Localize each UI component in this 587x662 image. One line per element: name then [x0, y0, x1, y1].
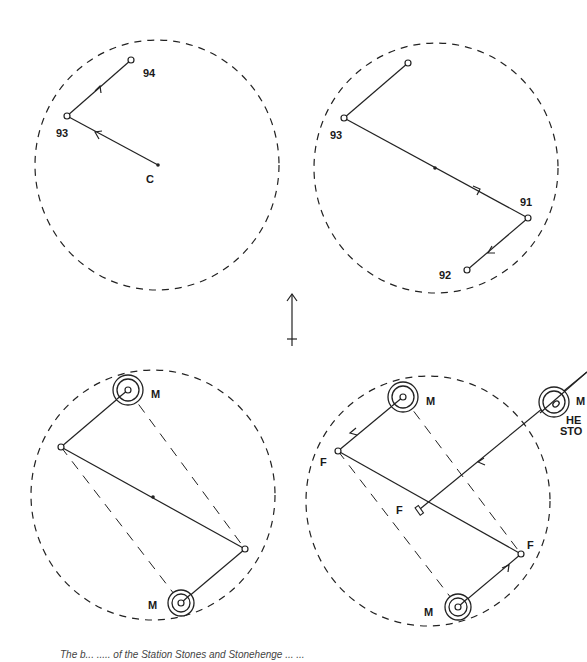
panel-bottom-right: M F F F M M HE STO — [306, 372, 587, 626]
node-91 — [525, 215, 531, 221]
dashed-circle — [31, 370, 275, 620]
label-93: 93 — [330, 129, 342, 141]
node-94 — [128, 57, 134, 63]
label-f: F — [320, 456, 327, 468]
label-m: M — [426, 395, 435, 407]
panel-top-right: 93 91 92 — [314, 43, 558, 293]
label-m: M — [151, 388, 160, 400]
label-91: 91 — [520, 196, 532, 208]
figure-caption: The b... ..... of the Station Stones and… — [60, 649, 587, 662]
node-92 — [464, 267, 470, 273]
label-heel-m: M — [576, 395, 585, 407]
segment-c-93 — [67, 116, 158, 165]
node-m2 — [455, 604, 461, 610]
arrow-icon — [478, 458, 485, 465]
dashed-line — [61, 447, 181, 603]
north-arrow-icon — [287, 294, 297, 346]
label-c: C — [146, 173, 154, 185]
arrow-icon — [350, 428, 357, 435]
node-right — [242, 546, 248, 552]
panel-top-left: 94 93 C — [35, 40, 279, 290]
dashed-line — [338, 451, 458, 607]
stonehenge-diagram: 94 93 C 93 91 92 — [0, 0, 587, 662]
dashed-line — [128, 390, 245, 549]
node-top — [405, 60, 411, 66]
panel-bottom-left: M M — [31, 370, 275, 620]
segment-91-92 — [467, 218, 528, 270]
dashed-line — [403, 397, 521, 554]
node-93 — [64, 113, 70, 119]
label-94: 94 — [143, 67, 156, 79]
node-m1 — [125, 387, 131, 393]
label-m: M — [148, 599, 157, 611]
node-f-left — [335, 448, 341, 454]
segment-93-94 — [67, 60, 131, 116]
label-f: F — [396, 504, 403, 516]
label-93: 93 — [56, 127, 68, 139]
arrow-icon — [95, 131, 102, 139]
center-point — [156, 163, 160, 167]
center-point — [151, 495, 155, 499]
node-m2 — [178, 600, 184, 606]
segment-93-top — [344, 63, 408, 118]
center-point — [433, 166, 437, 170]
segment — [338, 451, 521, 554]
node-m1 — [400, 394, 406, 400]
label-92: 92 — [439, 269, 451, 281]
node-f-right — [518, 551, 524, 557]
label-f: F — [527, 539, 534, 551]
node-left — [58, 444, 64, 450]
node-93 — [341, 115, 347, 121]
label-heel-stone-2: STO — [560, 425, 583, 437]
label-m: M — [424, 606, 433, 618]
